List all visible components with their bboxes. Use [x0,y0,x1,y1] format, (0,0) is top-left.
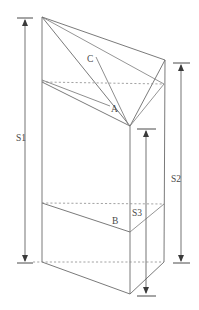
leader-line-a [42,80,110,106]
dimension-s2 [173,63,190,263]
edge-top-left-to-right-upper-back [42,17,164,84]
face-label-a: A [111,104,118,114]
edge-top-left-to-top-right [42,17,165,60]
edge-top-right-to-front-apex [130,60,165,126]
s1-top-arrowhead [22,19,28,26]
face-label-b: B [112,216,118,226]
s2-top-arrowhead [178,64,184,71]
s1-bottom-arrowhead [22,255,28,262]
dimension-label-s2: S2 [171,174,181,184]
s2-bottom-arrowhead [178,255,184,262]
prism-figure-svg: S1 S2 S3 A B C [0,0,199,310]
prism-hidden-edges [33,82,164,262]
s3-top-arrowhead [143,130,149,137]
s3-bottom-arrowhead [143,287,149,294]
dimension-label-s1: S1 [16,133,26,143]
edge-right-rear-vertical [164,60,165,262]
dimension-label-s3: S3 [132,208,142,218]
prism-body-edges [42,17,165,294]
edge-right-upper-back-to-front-apex [130,84,164,126]
edge-left-bottom-to-front-bottom [42,262,130,294]
hidden-edge-upper-horizontal [42,82,164,84]
prism-diagram: S1 S2 S3 A B C [0,0,199,310]
face-label-c: C [87,54,93,64]
